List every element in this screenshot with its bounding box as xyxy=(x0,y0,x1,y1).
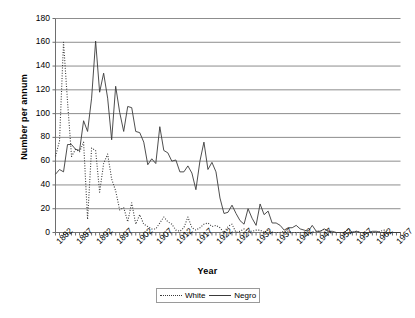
legend-entry-white: White xyxy=(160,292,205,300)
legend-swatch-negro-solid-line-icon xyxy=(209,295,231,296)
lynching-chart: Number per annum Year 020406080100120140… xyxy=(0,0,415,318)
y-tick-label: 0 xyxy=(45,228,50,237)
legend-swatch-white-dotted-line-icon xyxy=(160,295,182,296)
y-tick-label: 160 xyxy=(36,37,50,46)
chart-legend: White Negro xyxy=(156,288,260,303)
data-series-layer xyxy=(56,41,401,232)
legend-label-white: White xyxy=(185,292,205,300)
y-axis-title: Number per annum xyxy=(19,52,29,182)
legend-entry-negro: Negro xyxy=(209,292,256,300)
y-tick-label: 60 xyxy=(41,156,50,165)
axis-lines xyxy=(56,19,401,233)
y-tick-label: 120 xyxy=(36,85,50,94)
y-tick-label: 80 xyxy=(41,132,50,141)
y-tick-label: 100 xyxy=(36,109,50,118)
legend-label-negro: Negro xyxy=(234,292,256,300)
y-tick-label: 20 xyxy=(41,204,50,213)
y-tick-label: 180 xyxy=(36,14,50,23)
series-line-negro xyxy=(56,41,401,232)
x-axis-title: Year xyxy=(0,266,415,276)
y-tick-label: 40 xyxy=(41,180,50,189)
y-tick-label: 140 xyxy=(36,61,50,70)
gridlines xyxy=(56,19,401,209)
